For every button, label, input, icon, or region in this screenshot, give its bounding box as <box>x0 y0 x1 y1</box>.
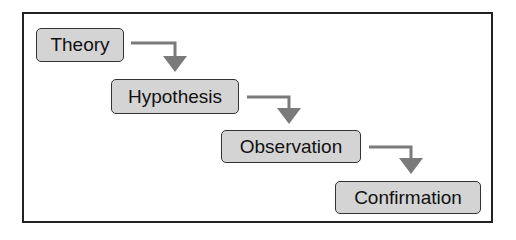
arrowhead-icon <box>277 108 301 124</box>
step-confirmation: Confirmation <box>335 181 481 214</box>
step-hypothesis: Hypothesis <box>111 79 239 114</box>
step-theory: Theory <box>36 28 124 62</box>
step-observation: Observation <box>221 130 361 163</box>
arrowhead-icon <box>163 56 187 72</box>
arrow-theory-to-hypothesis <box>131 43 175 58</box>
arrowhead-icon <box>399 158 423 174</box>
